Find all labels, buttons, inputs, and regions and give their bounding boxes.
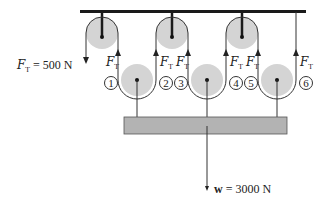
top-pulleys	[86, 12, 258, 49]
segment-number-4: 4	[229, 76, 243, 90]
segment-number-6: 6	[299, 76, 313, 90]
arrow-up-icons	[115, 49, 299, 56]
arrow-down-icon	[83, 57, 89, 64]
tension-label-3: FT	[176, 55, 189, 71]
tension-label-1: FT	[106, 55, 119, 71]
tension-label-5: FT	[246, 55, 259, 71]
segment-number-2: 2	[159, 76, 173, 90]
bottom-pulleys	[121, 64, 293, 117]
tension-label-4: FT	[230, 55, 243, 71]
weight-label: w = 3000 N	[214, 178, 271, 197]
pulley-system-diagram	[0, 0, 321, 198]
segment-number-5: 5	[244, 76, 258, 90]
segment-number-1: 1	[104, 76, 118, 90]
load-platform	[124, 117, 287, 134]
arrow-down-icon	[205, 186, 209, 191]
tension-left-label: FT = 500 N	[17, 54, 72, 74]
tension-label-6: FT	[300, 55, 313, 71]
ceiling-bar	[80, 10, 306, 13]
segment-number-3: 3	[174, 76, 188, 90]
tension-label-2: FT	[160, 55, 173, 71]
